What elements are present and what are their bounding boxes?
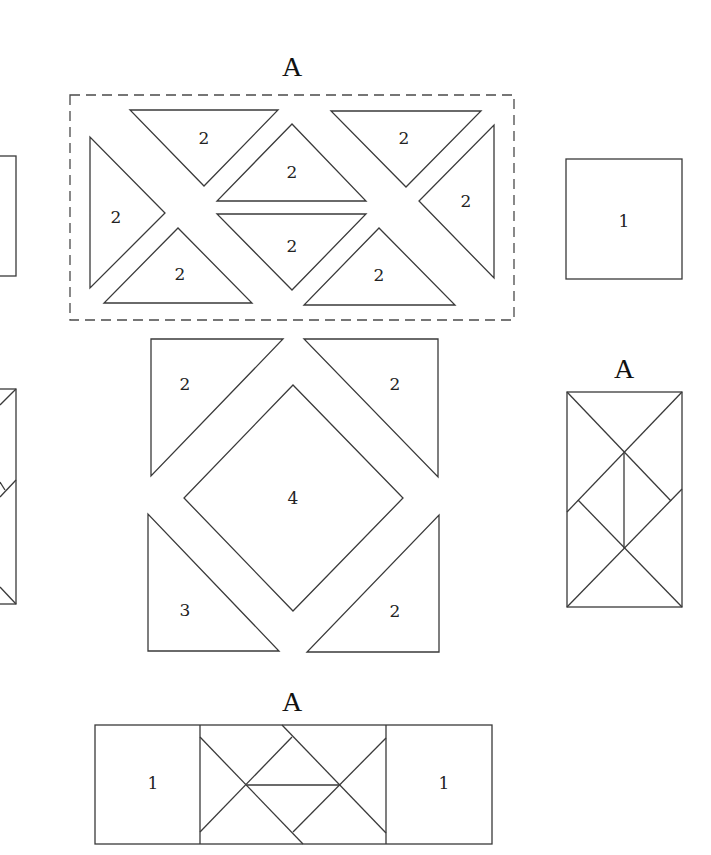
section-titles: AAA: [282, 51, 635, 717]
title-label: A: [282, 51, 303, 82]
dashed-boundary: [70, 95, 514, 320]
cut-line: [578, 500, 682, 607]
cut-line: [282, 725, 386, 833]
diagram-canvas: AAA 22222222 22432 1 11: [0, 0, 711, 855]
triangle-piece: [130, 110, 278, 186]
cut-line: [0, 587, 16, 604]
piece-label: 2: [180, 374, 191, 394]
triangle-piece: [307, 515, 439, 652]
triangle-piece: [148, 514, 279, 651]
partial-rectangle-outline: [0, 389, 16, 604]
piece-label: 1: [148, 773, 159, 793]
cut-line: [567, 392, 671, 501]
piece-label: 2: [287, 236, 298, 256]
middle-diamond-group: 22432: [148, 339, 439, 652]
cut-line: [0, 482, 5, 490]
triangle-piece: [90, 137, 165, 288]
triangle-piece: [151, 339, 283, 476]
piece-label: 2: [199, 128, 210, 148]
piece-label: 1: [619, 211, 630, 231]
piece-label: 2: [287, 162, 298, 182]
piece-label: 2: [374, 265, 385, 285]
piece-label: 2: [175, 264, 186, 284]
triangle-piece: [304, 339, 438, 477]
piece-label: 2: [111, 207, 122, 227]
left-partial-pieces: [0, 156, 16, 604]
piece-label: 2: [390, 601, 401, 621]
triangle-piece: [419, 125, 494, 278]
piece-label: 2: [390, 374, 401, 394]
cut-line: [200, 737, 303, 844]
right-square-piece: 1: [566, 159, 682, 279]
top-triangle-group: 22222222: [70, 95, 514, 320]
piece-label: 1: [439, 773, 450, 793]
cut-line: [0, 389, 16, 405]
partial-square-piece: [0, 156, 16, 276]
triangle-piece: [331, 111, 481, 187]
piece-label: 2: [461, 191, 472, 211]
right-rectangle-assembly: [567, 392, 682, 607]
piece-label: 3: [180, 600, 191, 620]
piece-label: 4: [288, 488, 299, 508]
bottom-rectangle-assembly: 11: [95, 725, 492, 844]
cut-line: [0, 480, 16, 497]
piece-label: 2: [399, 128, 410, 148]
title-label: A: [614, 353, 635, 384]
title-label: A: [282, 686, 303, 717]
